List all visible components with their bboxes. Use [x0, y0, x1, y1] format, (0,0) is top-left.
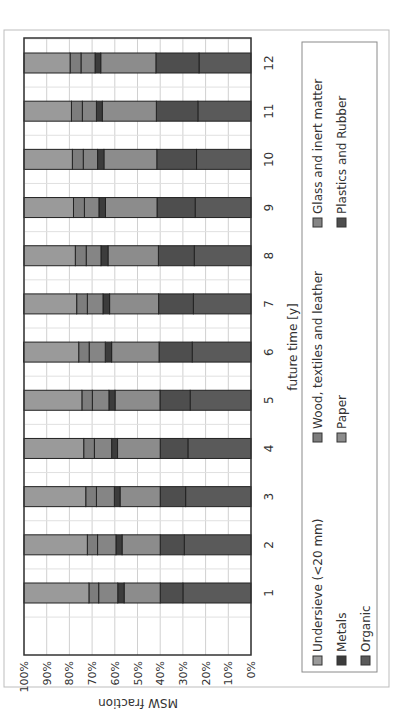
bar-segment	[124, 583, 160, 603]
bar-segment	[188, 438, 251, 458]
bar-segment	[73, 198, 84, 218]
y-tick-label: 90%	[41, 661, 54, 685]
bar-segment	[108, 246, 158, 266]
bar-segment	[96, 101, 102, 121]
bar-segment	[118, 438, 161, 458]
bar-segment	[98, 149, 104, 169]
bar-segment	[157, 149, 197, 169]
y-tick-label: 100%	[18, 661, 31, 692]
bar-segment	[120, 487, 160, 507]
bar-segment	[86, 487, 97, 507]
legend-label: Metals	[335, 613, 349, 652]
bar-segment	[105, 198, 157, 218]
bar-segment	[24, 487, 86, 507]
y-tick-label: 70%	[86, 661, 99, 685]
x-tick-label: 4	[262, 445, 276, 453]
bar-segment	[184, 535, 251, 555]
bar-segment	[24, 101, 71, 121]
legend-label: Undersieve (<20 mm)	[311, 519, 325, 652]
bar-segment	[101, 53, 156, 73]
bar-segment	[96, 487, 114, 507]
bar-segment	[112, 438, 118, 458]
bar-segment	[24, 342, 79, 362]
bar-segment	[24, 198, 73, 218]
legend-label: Wood, textiles and leather	[311, 271, 325, 429]
bar-segment	[87, 535, 97, 555]
bar-segment	[98, 535, 116, 555]
bar-segment	[95, 53, 101, 73]
bar-segment	[24, 535, 87, 555]
bar-segment	[109, 390, 115, 410]
legend-label: Organic	[359, 605, 373, 652]
bar-segment	[194, 246, 251, 266]
x-tick-label: 1	[262, 589, 276, 597]
x-tick-label: 9	[262, 204, 276, 212]
bar-segment	[160, 535, 184, 555]
x-tick-label: 2	[262, 541, 276, 549]
bar-segment	[87, 294, 103, 314]
bar-segment	[197, 149, 251, 169]
bar-segment	[159, 342, 192, 362]
x-tick-label: 3	[262, 493, 276, 501]
bar-segment	[115, 390, 160, 410]
bar-segment	[112, 342, 159, 362]
bar-segment	[103, 294, 110, 314]
bar-segment	[71, 101, 82, 121]
bar-segment	[70, 53, 81, 73]
x-axis-title: future time [y]	[286, 303, 300, 390]
legend-item: Wood, textiles and leather	[311, 271, 325, 442]
bar-segment	[193, 294, 251, 314]
legend-swatch	[361, 656, 370, 665]
bar-segment	[24, 583, 89, 603]
bar-segment	[114, 487, 120, 507]
x-tick-label: 8	[262, 252, 276, 260]
y-tick-label: 30%	[177, 661, 190, 685]
bar-segment	[160, 583, 183, 603]
x-tick-label: 6	[262, 348, 276, 356]
bar-segment	[94, 438, 111, 458]
y-tick-label: 40%	[154, 661, 167, 685]
bar-segment	[79, 342, 89, 362]
bar-segment	[160, 487, 185, 507]
legend-label: Paper	[335, 395, 349, 429]
bar-segment	[190, 390, 251, 410]
bar-segment	[72, 149, 83, 169]
bar-segment	[92, 390, 109, 410]
bar-segment	[195, 198, 251, 218]
bar-segment	[24, 246, 75, 266]
bar-segment	[156, 53, 199, 73]
bar-segment	[99, 583, 118, 603]
bar-segment	[24, 149, 72, 169]
bar-segment	[77, 294, 88, 314]
bar-segment	[99, 198, 106, 218]
bar-segment	[183, 583, 251, 603]
bar-segment	[89, 342, 105, 362]
y-tick-label: 50%	[132, 661, 145, 685]
bar-segment	[118, 583, 124, 603]
bar-segment	[84, 198, 99, 218]
bar-segment	[82, 101, 96, 121]
legend-swatch	[313, 433, 322, 442]
bar-segment	[105, 342, 111, 362]
y-axis-title: MSW fraction	[98, 696, 178, 710]
bar-segment	[24, 53, 70, 73]
legend-item: Plastics and Rubber	[335, 96, 349, 227]
y-tick-label: 10%	[222, 661, 235, 685]
bar-segment	[81, 53, 95, 73]
bar-segment	[84, 438, 95, 458]
x-tick-label: 10	[262, 152, 276, 167]
y-tick-label: 80%	[63, 661, 76, 685]
bar-segment	[24, 294, 77, 314]
chart-figure: 0%10%20%30%40%50%60%70%80%90%100% 123456…	[0, 0, 399, 717]
bar-segment	[75, 246, 86, 266]
bar-segment	[156, 101, 198, 121]
bar-segment	[89, 583, 99, 603]
bar-segment	[160, 390, 190, 410]
bar-segment	[104, 149, 157, 169]
legend-swatch	[337, 218, 346, 227]
legend-swatch	[337, 656, 346, 665]
bar-segment	[192, 342, 251, 362]
bar-segment	[24, 390, 82, 410]
bar-segment	[101, 246, 108, 266]
legend-label: Glass and inert matter	[311, 79, 325, 214]
